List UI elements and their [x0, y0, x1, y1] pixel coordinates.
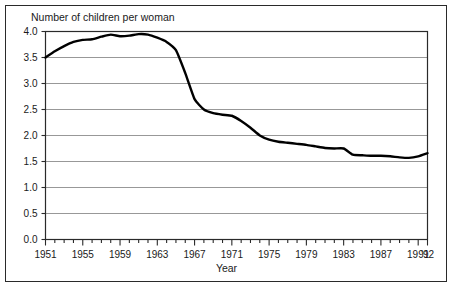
gridlines-group: [46, 32, 428, 214]
x-tick-label: 1951: [28, 250, 64, 260]
y-tick-label: 1.5: [4, 157, 38, 167]
y-tick-label: 2.5: [4, 105, 38, 115]
y-tick-label: 3.0: [4, 79, 38, 89]
x-tick-label: 1975: [251, 250, 287, 260]
y-tick-label: 3.5: [4, 53, 38, 63]
x-tick-label: 1979: [288, 250, 324, 260]
y-tick-label: 4.0: [4, 27, 38, 37]
x-axis-title: Year: [0, 262, 453, 274]
x-tick-label: 1987: [363, 250, 399, 260]
x-tick-label: '92: [410, 250, 446, 260]
x-tick-label: 1959: [102, 250, 138, 260]
y-tick-label: 2.0: [4, 131, 38, 141]
fertility-rate-line: [46, 34, 428, 158]
x-tick-label: 1983: [326, 250, 362, 260]
x-tick-label: 1971: [214, 250, 250, 260]
y-tick-label: 0.5: [4, 209, 38, 219]
y-tick-label: 1.0: [4, 183, 38, 193]
x-tick-marks-group: [46, 240, 428, 246]
figure-container: Number of children per woman 0.00.51.01.…: [0, 0, 453, 293]
x-tick-label: 1967: [177, 250, 213, 260]
x-tick-label: 1963: [139, 250, 175, 260]
y-tick-label: 0.0: [4, 235, 38, 245]
x-tick-label: 1955: [65, 250, 101, 260]
